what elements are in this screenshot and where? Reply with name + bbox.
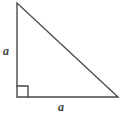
right-angle-square-icon <box>17 86 28 97</box>
right-triangle-figure: a a <box>0 0 123 119</box>
triangle-outline <box>17 3 118 97</box>
horizontal-leg-label: a <box>58 101 64 113</box>
vertical-leg-label: a <box>3 45 9 57</box>
